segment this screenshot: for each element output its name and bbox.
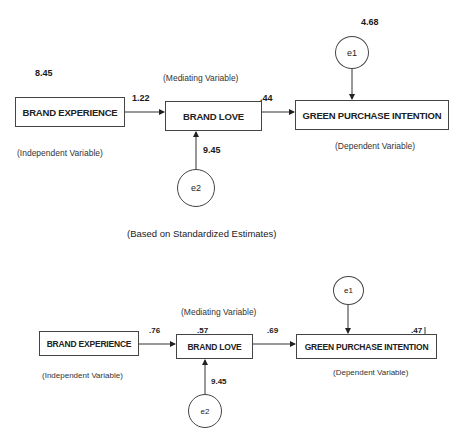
node-label: BRAND LOVE — [183, 111, 244, 122]
node-label: BRAND EXPERIENCE — [47, 339, 132, 349]
e2-variance-label-bottom: 9.45 — [211, 377, 227, 386]
gpi-role-label: (Dependent Variable) — [335, 141, 415, 151]
node-green-purchase-intention-bottom: GREEN PURCHASE INTENTION — [296, 334, 437, 359]
e1-variance-label: 4.68 — [361, 17, 379, 27]
error-node-e1-bottom: e1 — [333, 276, 364, 305]
path-coef-bl-gpi-bottom: .69 — [267, 326, 278, 335]
error-node-e2-bottom: e2 — [188, 394, 222, 428]
diagram-caption: (Based on Standardized Estimates) — [127, 228, 276, 239]
node-brand-experience: BRAND EXPERIENCE — [15, 97, 125, 127]
be-role-label-bottom: (Independent Variable) — [42, 371, 123, 380]
node-label: e1 — [344, 286, 353, 295]
node-brand-love: BRAND LOVE — [165, 101, 262, 131]
node-label: e2 — [191, 183, 201, 193]
node-label: GREEN PURCHASE INTENTION — [303, 110, 442, 121]
node-label: GREEN PURCHASE INTENTION — [305, 342, 429, 352]
node-label: e2 — [201, 407, 210, 416]
path-coef-be-bl-bottom: .76 — [149, 326, 160, 335]
error-node-e2: e2 — [177, 169, 215, 207]
node-brand-love-bottom: BRAND LOVE — [176, 334, 253, 359]
bl-role-label-bottom: (Mediating Variable) — [181, 307, 256, 317]
be-variance-label: 8.45 — [35, 68, 53, 78]
error-node-e1: e1 — [335, 36, 369, 69]
gpi-role-label-bottom: (Dependent Variable) — [333, 368, 408, 377]
e2-variance-label: 9.45 — [203, 145, 221, 155]
be-role-label: (Independent Variable) — [17, 148, 103, 158]
bl-role-label: (Mediating Variable) — [163, 73, 238, 83]
node-brand-experience-bottom: BRAND EXPERIENCE — [39, 331, 139, 356]
node-green-purchase-intention: GREEN PURCHASE INTENTION — [295, 100, 449, 130]
node-label: e1 — [347, 48, 357, 58]
node-label: BRAND LOVE — [187, 342, 241, 352]
node-label: BRAND EXPERIENCE — [23, 107, 118, 118]
path-coef-be-bl: 1.22 — [132, 93, 150, 103]
